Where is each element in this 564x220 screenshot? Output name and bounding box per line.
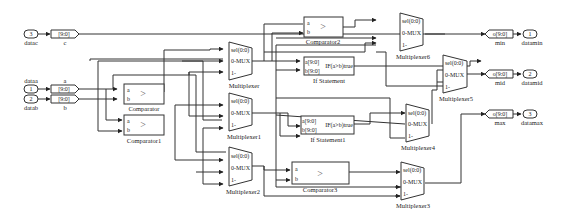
svg-text:a[9:0]: a[9:0] (302, 118, 316, 125)
inport-label: datac (24, 39, 38, 46)
svg-text:sel(0:0): sel(0:0) (231, 153, 249, 160)
svg-text:1-: 1- (231, 122, 236, 128)
svg-text:0-MUX: 0-MUX (231, 58, 251, 64)
svg-text:1: 1 (30, 86, 33, 92)
svg-text:3: 3 (529, 111, 532, 117)
block-label: Multiplexer (229, 82, 261, 89)
svg-text:1-: 1- (408, 133, 413, 139)
svg-text:0-MUX: 0-MUX (403, 179, 423, 185)
outport-label: datamax (521, 119, 544, 126)
svg-text:3: 3 (30, 31, 33, 37)
svg-text:0-MUX: 0-MUX (445, 72, 465, 78)
signal-label: b (63, 104, 66, 111)
multiplexer3-block[interactable]: sel(0:0) 0-MUX 1- Multiplexer3 (396, 162, 430, 209)
outport-datamax[interactable]: o[9:0] max 3 datamax (485, 110, 544, 126)
svg-text:0-MUX: 0-MUX (408, 121, 428, 127)
block-diagram-canvas: 3 datac [9:0] c dataa 1 [9:0] a 2 datab … (0, 0, 564, 220)
signal-label: mid (495, 79, 506, 86)
svg-text:b: b (127, 127, 130, 133)
svg-text:[9:0]: [9:0] (58, 96, 70, 103)
svg-text:o[9:0]: o[9:0] (493, 111, 508, 118)
inport-datac[interactable]: 3 datac [9:0] c (24, 30, 79, 46)
svg-text:1-: 1- (445, 84, 450, 90)
comparator1-block[interactable]: a b > Comparator1 (124, 115, 164, 144)
svg-text:sel(0:0): sel(0:0) (445, 60, 463, 67)
outport-label: datamin (522, 39, 544, 46)
svg-text:IF(a>b)true: IF(a>b)true (325, 63, 353, 70)
inport-dataa[interactable]: dataa 1 [9:0] a (24, 77, 79, 93)
svg-text:o[9:0]: o[9:0] (493, 71, 508, 78)
svg-text:sel(0:0): sel(0:0) (231, 47, 249, 54)
svg-text:IF(a>b)true: IF(a>b)true (325, 122, 353, 129)
comparator2-block[interactable]: a b > Comparator2 (304, 17, 343, 45)
svg-text:a[9:0]: a[9:0] (305, 59, 319, 66)
block-label: Multiplexer4 (401, 144, 436, 151)
if-statement1-block[interactable]: a[9:0] b[9:0] IF(a>b)true If Statement1 (301, 116, 354, 143)
greater-than-icon: > (140, 88, 146, 99)
inport-datab[interactable]: 2 datab [9:0] b (24, 95, 79, 111)
svg-text:sel(0:0): sel(0:0) (408, 110, 426, 117)
signal-label: max (494, 119, 506, 126)
svg-text:sel(0:0): sel(0:0) (402, 18, 420, 25)
svg-text:b: b (307, 29, 310, 35)
svg-text:b: b (127, 96, 130, 102)
block-label: If Statement (313, 77, 345, 84)
signal-label: a (64, 77, 67, 84)
multiplexer6-block[interactable]: sel(0:0) 0-MUX 1- Multiplexer6 (396, 13, 431, 60)
block-label: Multiplexer6 (396, 53, 431, 60)
svg-text:1-: 1- (231, 177, 236, 183)
multiplexer2-block[interactable]: sel(0:0) 0-MUX 1- Multiplexer2 (226, 147, 260, 195)
multiplexer5-block[interactable]: sel(0:0) 0-MUX 1- Multiplexer5 (439, 55, 473, 102)
svg-text:[9:0]: [9:0] (58, 31, 70, 38)
inport-label: datab (24, 104, 38, 111)
block-label: Comparator1 (127, 137, 161, 144)
svg-text:sel(0:0): sel(0:0) (403, 167, 421, 174)
block-label: Comparator2 (306, 38, 340, 45)
svg-text:b: b (295, 176, 298, 182)
svg-text:sel(0:0): sel(0:0) (231, 98, 249, 105)
if-statement-block[interactable]: a[9:0] b[9:0] IF(a>b)true If Statement (304, 57, 354, 84)
comparator3-block[interactable]: a b > Comparator3 (292, 162, 349, 193)
greater-than-icon: > (317, 168, 323, 179)
multiplexer1-block[interactable]: sel(0:0) 0-MUX 1- Multiplexer1 (227, 93, 261, 140)
svg-text:a: a (127, 87, 130, 93)
multiplexer-block[interactable]: sel(0:0) 0-MUX 1- Multiplexer (229, 42, 261, 89)
svg-text:0-MUX: 0-MUX (231, 110, 251, 116)
svg-text:a: a (307, 20, 310, 26)
block-label: If Statement1 (310, 136, 345, 143)
block-label: Multiplexer2 (226, 188, 260, 195)
svg-text:b[9:0]: b[9:0] (302, 127, 317, 134)
signal-label: min (495, 39, 506, 46)
comparator-block[interactable]: a b > Comparator (124, 84, 164, 112)
block-label: Comparator (128, 105, 160, 112)
svg-text:a: a (295, 166, 298, 172)
svg-text:a: a (127, 118, 130, 124)
block-label: Multiplexer3 (396, 202, 430, 209)
svg-text:1-: 1- (231, 70, 236, 76)
svg-text:0-MUX: 0-MUX (402, 30, 422, 36)
block-label: Comparator3 (303, 186, 337, 193)
greater-than-icon: > (140, 119, 146, 130)
outport-datamin[interactable]: o[9:0] min 1 datamin (485, 30, 543, 46)
svg-text:1-: 1- (402, 42, 407, 48)
svg-text:b[9:0]: b[9:0] (305, 68, 320, 75)
inport-label: dataa (24, 77, 38, 84)
block-label: Multiplexer5 (439, 95, 473, 102)
multiplexer4-block[interactable]: sel(0:0) 0-MUX 1- Multiplexer4 (401, 104, 436, 151)
svg-text:[9:0]: [9:0] (58, 86, 70, 93)
svg-text:0-MUX: 0-MUX (231, 165, 251, 171)
svg-text:1-: 1- (403, 191, 408, 197)
svg-text:2: 2 (30, 96, 33, 102)
svg-text:2: 2 (529, 71, 532, 77)
svg-text:o[9:0]: o[9:0] (493, 31, 508, 38)
svg-text:1: 1 (529, 31, 532, 37)
outport-datamid[interactable]: o[9:0] mid 2 datamid (485, 70, 543, 86)
signal-label: c (64, 39, 67, 46)
outport-label: datamid (522, 79, 544, 86)
greater-than-icon: > (320, 21, 326, 32)
block-label: Multiplexer1 (227, 133, 261, 140)
